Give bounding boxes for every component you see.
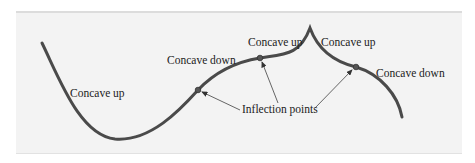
label-inflection-points: Inflection points [242,104,318,116]
label-concave-up-left: Concave up [70,88,125,100]
label-concave-up-right: Concave up [321,37,376,49]
arrow-to-inflection-1 [202,92,240,110]
inflection-point-2 [257,55,263,61]
label-concave-down-mid: Concave down [167,55,236,67]
inflection-point-1 [195,87,201,93]
arrow-to-inflection-3 [315,70,352,108]
label-concave-down-right: Concave down [376,68,445,80]
arrow-to-inflection-2 [262,62,278,103]
label-concave-up-mid: Concave up [248,37,303,49]
concavity-diagram [0,0,475,163]
inflection-point-3 [353,64,359,70]
